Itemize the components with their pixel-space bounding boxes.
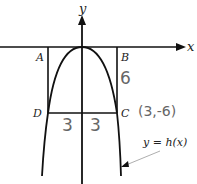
annotation-half-width-right: 3 xyxy=(90,115,101,135)
annotation-half-width-left: 3 xyxy=(62,115,73,135)
diagram-canvas: x y A B D C 6 3 3 (3,-6) y = h(x) xyxy=(0,0,197,184)
pointer-arrowhead-icon xyxy=(121,161,129,167)
point-label-C: C xyxy=(121,107,130,120)
annotation-height-6: 6 xyxy=(120,68,131,88)
annotation-point-C-coords: (3,-6) xyxy=(138,103,176,119)
y-axis-arrow-icon xyxy=(78,15,86,25)
point-label-D: D xyxy=(32,107,42,120)
point-label-B: B xyxy=(120,51,129,64)
x-axis-label: x xyxy=(187,39,195,54)
curve-label: y = h(x) xyxy=(142,136,187,149)
y-axis-label: y xyxy=(78,1,87,16)
x-axis-arrow-icon xyxy=(176,43,186,51)
curve-label-pointer xyxy=(126,151,160,165)
point-label-A: A xyxy=(35,51,44,64)
